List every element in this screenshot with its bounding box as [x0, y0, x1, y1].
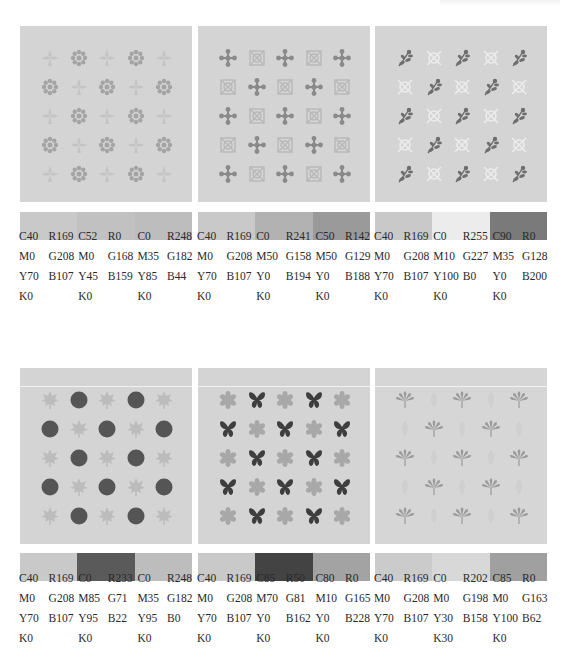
rgb-value: R248 [167, 568, 197, 588]
rgb-value: B159 [108, 266, 138, 286]
sprig-icon [395, 164, 415, 184]
cmyk-value: M0 [19, 588, 49, 608]
butterfly-icon [275, 419, 295, 439]
cmyk-value: M0 [197, 246, 227, 266]
fleur-icon [97, 48, 117, 68]
star-flower-icon [332, 390, 352, 410]
rgb-value: B194 [286, 266, 316, 286]
cmyk-value: Y0 [256, 608, 286, 628]
rgb-value: B107 [49, 608, 79, 628]
faint-leaf-icon [509, 419, 529, 439]
maple-leaf-icon [97, 390, 117, 410]
ornate-tile-icon [304, 164, 324, 184]
cmyk-value: Y0 [315, 266, 345, 286]
color-value-row: M0G208M50G158M50G129 [197, 246, 375, 266]
round-flower-icon [97, 419, 117, 439]
faint-leaf-icon [452, 477, 472, 497]
rgb-value: B44 [167, 266, 197, 286]
maple-leaf-icon [126, 419, 146, 439]
rgb-value: R0 [345, 568, 375, 588]
color-value-row: Y70B107Y0B194Y0B188 [197, 266, 375, 286]
rgb-value: R169 [227, 568, 257, 588]
hemp-leaf-icon [395, 390, 415, 410]
star-flower-icon [332, 448, 352, 468]
rgb-value [286, 628, 316, 648]
butterfly-icon [332, 477, 352, 497]
butterfly-icon [247, 448, 267, 468]
hemp-leaf-icon [509, 390, 529, 410]
cmyk-value: Y70 [19, 266, 49, 286]
rgb-value: R169 [227, 226, 257, 246]
rgb-value: G208 [404, 246, 434, 266]
light-knot-icon [509, 135, 529, 155]
pattern-panel [375, 26, 547, 202]
rgb-value: R241 [286, 226, 316, 246]
rosette-icon [126, 164, 146, 184]
rosette-icon [154, 77, 174, 97]
rgb-value [167, 628, 197, 648]
color-value-row: K0K30K0 [374, 628, 552, 648]
dot-cross-icon [218, 48, 238, 68]
rgb-value [108, 286, 138, 306]
cmyk-value: Y100 [492, 608, 522, 628]
butterfly-icon [218, 419, 238, 439]
cmyk-value: C0 [433, 568, 463, 588]
rgb-value: G182 [167, 588, 197, 608]
sprig-icon [481, 135, 501, 155]
pattern-panel [20, 26, 192, 202]
faint-leaf-icon [424, 390, 444, 410]
cmyk-value: M35 [137, 246, 167, 266]
rgb-value: G128 [522, 246, 552, 266]
rgb-value: B0 [463, 266, 493, 286]
rgb-value: G227 [463, 246, 493, 266]
rgb-value: G158 [286, 246, 316, 266]
star-flower-icon [275, 448, 295, 468]
rgb-value [108, 628, 138, 648]
cmyk-value: M0 [78, 246, 108, 266]
ornate-tile-icon [332, 135, 352, 155]
faint-leaf-icon [424, 448, 444, 468]
rgb-value: B188 [345, 266, 375, 286]
cmyk-value: Y0 [256, 266, 286, 286]
cmyk-value: K0 [374, 286, 404, 306]
fleur-icon [126, 77, 146, 97]
cmyk-value: C85 [492, 568, 522, 588]
rgb-value: G129 [345, 246, 375, 266]
cmyk-value: K0 [433, 286, 463, 306]
butterfly-icon [275, 477, 295, 497]
rgb-value [49, 628, 79, 648]
dot-cross-icon [218, 106, 238, 126]
pattern-panel [198, 26, 370, 202]
rosette-icon [126, 48, 146, 68]
cmyk-value: Y30 [433, 608, 463, 628]
color-value-row: Y70B107Y45B159Y85B44 [19, 266, 197, 286]
rgb-value [522, 628, 552, 648]
divider [198, 386, 370, 387]
fleur-icon [154, 164, 174, 184]
rgb-value [286, 286, 316, 306]
rosette-icon [126, 106, 146, 126]
color-values: C40R169C85R50C80R0M0G208M70G81M10G165Y70… [197, 568, 375, 648]
dot-cross-icon [275, 48, 295, 68]
fleur-icon [126, 135, 146, 155]
rgb-value: B107 [404, 608, 434, 628]
light-knot-icon [481, 106, 501, 126]
butterfly-icon [247, 390, 267, 410]
cmyk-value: C0 [137, 226, 167, 246]
rgb-value: R0 [522, 568, 552, 588]
cmyk-value: K0 [197, 628, 227, 648]
cmyk-value: K0 [19, 628, 49, 648]
sprig-icon [452, 164, 472, 184]
faint-leaf-icon [395, 419, 415, 439]
color-value-row: M0G208M0G198M0G163 [374, 588, 552, 608]
rgb-value: R0 [522, 226, 552, 246]
cmyk-value: M70 [256, 588, 286, 608]
ornate-tile-icon [275, 135, 295, 155]
cmyk-value: K0 [197, 286, 227, 306]
hemp-leaf-icon [395, 506, 415, 526]
faint-leaf-icon [395, 477, 415, 497]
cmyk-value: Y0 [315, 608, 345, 628]
cmyk-value: M85 [78, 588, 108, 608]
ornate-tile-icon [247, 164, 267, 184]
butterfly-icon [247, 506, 267, 526]
